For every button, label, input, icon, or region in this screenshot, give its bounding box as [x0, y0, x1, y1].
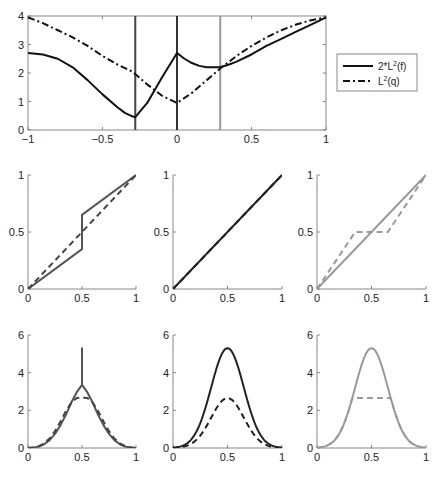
x-tick-label: 0.5	[220, 292, 235, 304]
y-tick-label: 1	[163, 169, 169, 181]
x-tick-label: 1	[423, 292, 429, 304]
y-tick-label: 0	[163, 283, 169, 295]
y-tick-label: 4	[307, 367, 313, 379]
y-tick-label: 0	[18, 442, 24, 454]
x-tick-label: 0	[314, 292, 320, 304]
top-plot: −1−0.500.5101234	[18, 10, 329, 145]
x-tick-label: 0.5	[364, 451, 379, 463]
y-tick-label: 0.5	[298, 226, 313, 238]
bottom-center-plot: 00.510246	[163, 329, 285, 463]
y-tick-label: 2	[18, 67, 24, 79]
y-tick-label: 2	[18, 404, 24, 416]
x-tick-label: 0.5	[74, 451, 89, 463]
x-tick-label: 0	[170, 292, 176, 304]
x-tick-label: 1	[133, 451, 139, 463]
y-tick-label: 0	[163, 442, 169, 454]
y-tick-label: 6	[163, 329, 169, 341]
series-solid	[28, 348, 136, 448]
mid-center-plot: 00.5100.51	[154, 169, 285, 304]
x-tick-label: 0.5	[74, 292, 89, 304]
y-tick-label: 1	[18, 96, 24, 108]
y-tick-label: 6	[307, 329, 313, 341]
x-tick-label: 1	[133, 292, 139, 304]
x-tick-label: 1	[279, 292, 285, 304]
x-tick-label: 0	[25, 292, 31, 304]
y-tick-label: 4	[18, 10, 24, 22]
x-tick-label: 0.5	[244, 133, 259, 145]
y-tick-label: 1	[307, 169, 313, 181]
x-tick-label: 1	[323, 133, 329, 145]
x-tick-label: 0	[25, 451, 31, 463]
y-tick-label: 0	[307, 283, 313, 295]
x-tick-label: 1	[279, 451, 285, 463]
legend-box	[337, 54, 417, 91]
figure: −1−0.500.5101234 2*L2(f)L2(q) 00.5100.51…	[0, 0, 443, 478]
bottom-left-plot: 00.510246	[18, 329, 139, 463]
x-tick-label: −0.5	[92, 133, 114, 145]
y-tick-label: 4	[18, 367, 24, 379]
mid-left-plot: 00.5100.51	[9, 169, 139, 304]
x-tick-label: 0	[174, 133, 180, 145]
bottom-right-plot: 00.510246	[307, 329, 429, 463]
y-tick-label: 0.5	[154, 226, 169, 238]
y-tick-label: 0	[18, 283, 24, 295]
y-tick-label: 4	[163, 367, 169, 379]
legend-label: 2*L2(f)	[378, 60, 406, 72]
y-tick-label: 6	[18, 329, 24, 341]
mid-right-plot: 00.5100.51	[298, 169, 429, 304]
y-tick-label: 3	[18, 39, 24, 51]
y-tick-label: 0	[307, 442, 313, 454]
series-dashed	[28, 398, 136, 448]
x-tick-label: 1	[423, 451, 429, 463]
x-tick-label: 0	[314, 451, 320, 463]
x-tick-label: 0.5	[364, 292, 379, 304]
y-tick-label: 2	[307, 404, 313, 416]
series-solid	[173, 348, 282, 447]
x-tick-label: 0	[170, 451, 176, 463]
x-tick-label: 0.5	[220, 451, 235, 463]
legend: 2*L2(f)L2(q)	[337, 54, 417, 91]
y-tick-label: 0.5	[9, 226, 24, 238]
y-tick-label: 2	[163, 404, 169, 416]
y-tick-label: 1	[18, 169, 24, 181]
y-tick-label: 0	[18, 124, 24, 136]
legend-label: L2(q)	[378, 75, 400, 87]
